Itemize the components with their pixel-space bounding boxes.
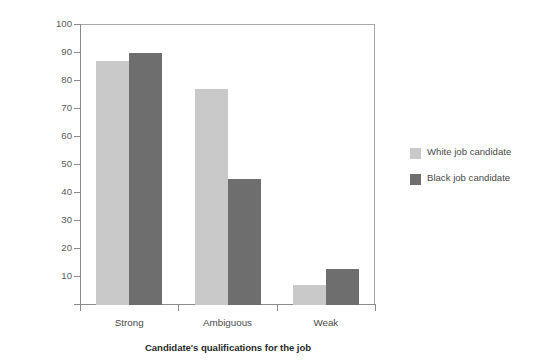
white-swatch-icon: [410, 148, 421, 159]
legend-label: Black job candidate: [427, 172, 510, 183]
x-axis-title: Candidate's qualifications for the job: [80, 342, 376, 353]
x-axis-tick: [277, 305, 278, 311]
bar-weak-black: [326, 269, 359, 305]
x-axis-end-tick: [375, 305, 376, 311]
legend: White job candidateBlack job candidate: [410, 144, 542, 196]
x-axis-start-tick: [80, 305, 81, 311]
bar-ambiguous-white: [195, 89, 228, 305]
black-swatch-icon: [410, 174, 421, 185]
legend-label: White job candidate: [427, 146, 511, 157]
x-axis-tick: [178, 305, 179, 311]
legend-row: Black job candidate: [410, 170, 542, 196]
bar-strong-white: [96, 61, 129, 305]
bar-ambiguous-black: [228, 179, 261, 305]
x-axis-category-label: Weak: [266, 317, 386, 328]
legend-row: White job candidate: [410, 144, 542, 170]
bar-chart-figure: Percentage of students recommending hiri…: [0, 0, 546, 362]
bar-strong-black: [129, 53, 162, 305]
bar-weak-white: [293, 285, 326, 305]
